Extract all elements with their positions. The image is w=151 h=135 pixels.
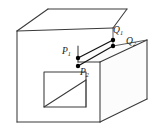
- label-q2: Q2: [126, 36, 136, 47]
- square-hole: [44, 72, 86, 107]
- label-q1-sub: 1: [120, 29, 123, 36]
- label-q1: Q1: [113, 25, 123, 36]
- label-q2-sub: 2: [133, 40, 136, 47]
- point-dot-p1: [76, 56, 80, 60]
- label-p2-sub: 2: [86, 71, 89, 78]
- point-dot-q1: [111, 38, 115, 42]
- label-p1-sub: 1: [68, 50, 71, 57]
- geometry-figure: P1 P2 Q1 Q2: [0, 0, 151, 135]
- square-hole-fill: [44, 72, 86, 107]
- point-dot-q2: [111, 44, 115, 48]
- cube-diagram-svg: P1 P2 Q1 Q2: [0, 0, 151, 135]
